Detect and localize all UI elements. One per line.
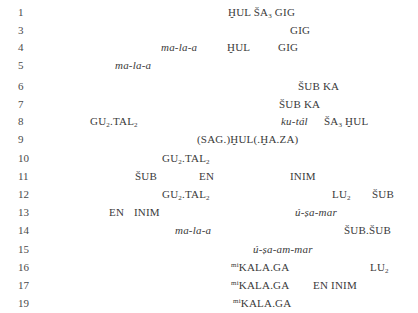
sumerogram: GU2.TAL2 — [90, 113, 138, 130]
text-line: 14ma-la-aŠUB.ŠUB — [0, 222, 418, 239]
sumerogram: ŠUB KA — [298, 78, 339, 95]
text-line: 15ú-ṣa-am-mar — [0, 241, 418, 258]
sumerogram: EN — [199, 168, 214, 185]
akkadian-word: ma-la-a — [115, 57, 151, 74]
text-line: 8GU2.TAL2ku-tálŠA3 ḪUL — [0, 113, 418, 130]
text-line: 10GU2.TAL2 — [0, 150, 418, 167]
sumerogram: GU2.TAL2 — [162, 150, 210, 167]
sumerogram: (SAG.)ḪUL(.ḪA.ZA) — [197, 131, 298, 148]
sumerogram: miKALA.GA — [231, 259, 289, 276]
sumerogram: ḪUL — [227, 39, 250, 56]
line-number: 14 — [18, 222, 29, 239]
sumerogram: miKALA.GA — [233, 295, 291, 312]
text-line: 19miKALA.GA — [0, 295, 418, 312]
text-line: 16miKALA.GALU2 — [0, 259, 418, 276]
text-line: 5ma-la-a — [0, 57, 418, 74]
sumerogram: INIM — [290, 168, 316, 185]
text-line: 1ḪUL ŠA3 GIG — [0, 4, 418, 21]
text-line: 17miKALA.GAEN INIM — [0, 277, 418, 294]
sumerogram: GIG — [278, 39, 298, 56]
akkadian-word: ma-la-a — [161, 39, 197, 56]
akkadian-word: ma-la-a — [175, 222, 211, 239]
line-number: 10 — [18, 150, 29, 167]
text-line: 7ŠUB KA — [0, 96, 418, 113]
line-number: 3 — [18, 22, 24, 39]
line-number: 7 — [18, 96, 24, 113]
text-line: 3GIG — [0, 22, 418, 39]
akkadian-word: ú-ṣa-mar — [295, 204, 337, 221]
line-number: 13 — [18, 204, 29, 221]
text-line: 12GU2.TAL2LU2ŠUB — [0, 186, 418, 203]
sumerogram: LU2 — [370, 259, 389, 276]
text-line: 6ŠUB KA — [0, 78, 418, 95]
sumerogram: EN — [109, 204, 124, 221]
sumerogram: ŠA3 ḪUL — [324, 113, 368, 130]
text-line: 9(SAG.)ḪUL(.ḪA.ZA) — [0, 131, 418, 148]
text-line: 13ENINIMú-ṣa-mar — [0, 204, 418, 221]
sumerogram: INIM — [134, 204, 160, 221]
line-number: 15 — [18, 241, 29, 258]
akkadian-word: ku-tál — [281, 113, 308, 130]
sumerogram: ŠUB KA — [279, 96, 320, 113]
line-number: 16 — [18, 259, 29, 276]
sumerogram: ŠUB.ŠUB — [344, 222, 391, 239]
line-number: 5 — [18, 57, 24, 74]
line-number: 1 — [18, 4, 24, 21]
line-number: 11 — [18, 168, 29, 185]
text-line: 11ŠUBENINIM — [0, 168, 418, 185]
sumerogram: GU2.TAL2 — [162, 186, 210, 203]
line-number: 8 — [18, 113, 24, 130]
line-number: 12 — [18, 186, 29, 203]
line-number: 6 — [18, 78, 24, 95]
sumerogram: ŠUB — [135, 168, 157, 185]
sumerogram: GIG — [290, 22, 310, 39]
line-number: 9 — [18, 131, 24, 148]
line-number: 17 — [18, 277, 29, 294]
sumerogram: LU2 — [332, 186, 351, 203]
sumerogram: ŠUB — [372, 186, 394, 203]
sumerogram: miKALA.GA — [231, 277, 289, 294]
akkadian-word: ú-ṣa-am-mar — [253, 241, 313, 258]
sumerogram: EN INIM — [313, 277, 357, 294]
line-number: 4 — [18, 39, 24, 56]
sumerogram: ḪUL ŠA3 GIG — [228, 4, 295, 21]
line-number: 19 — [18, 295, 29, 312]
text-line: 4ma-la-aḪULGIG — [0, 39, 418, 56]
